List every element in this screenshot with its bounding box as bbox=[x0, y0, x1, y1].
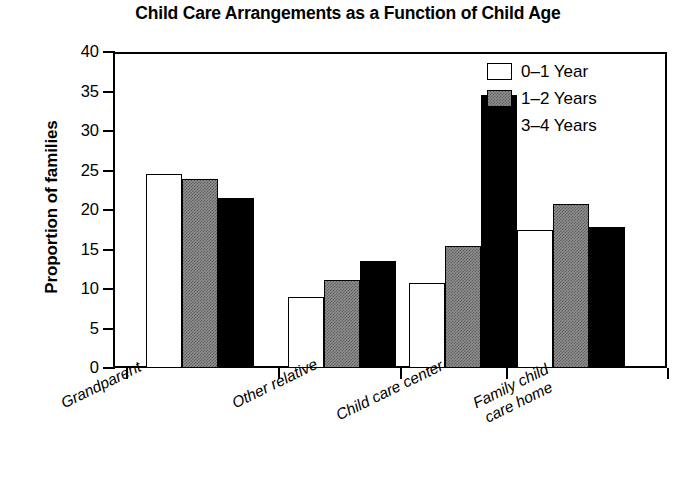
chart-legend: 0–1 Year1–2 Years3–4 Years bbox=[487, 58, 659, 139]
legend-label: 0–1 Year bbox=[521, 63, 588, 81]
bar bbox=[146, 174, 182, 368]
bar bbox=[182, 179, 218, 368]
legend-item: 3–4 Years bbox=[487, 112, 659, 139]
bar bbox=[218, 198, 254, 368]
legend-swatch-icon bbox=[487, 117, 512, 134]
bar bbox=[409, 283, 445, 368]
bar bbox=[360, 261, 396, 368]
bar-chart-figure: Child Care Arrangements as a Function of… bbox=[0, 0, 696, 488]
legend-swatch-icon bbox=[487, 63, 512, 80]
bar bbox=[517, 230, 553, 368]
legend-item: 1–2 Years bbox=[487, 85, 659, 112]
bar bbox=[445, 246, 481, 368]
bar bbox=[324, 280, 360, 368]
bar bbox=[589, 227, 625, 368]
bar bbox=[553, 204, 589, 368]
legend-label: 1–2 Years bbox=[521, 90, 597, 108]
legend-swatch-icon bbox=[487, 90, 512, 107]
legend-label: 3–4 Years bbox=[521, 117, 597, 135]
legend-item: 0–1 Year bbox=[487, 58, 659, 85]
